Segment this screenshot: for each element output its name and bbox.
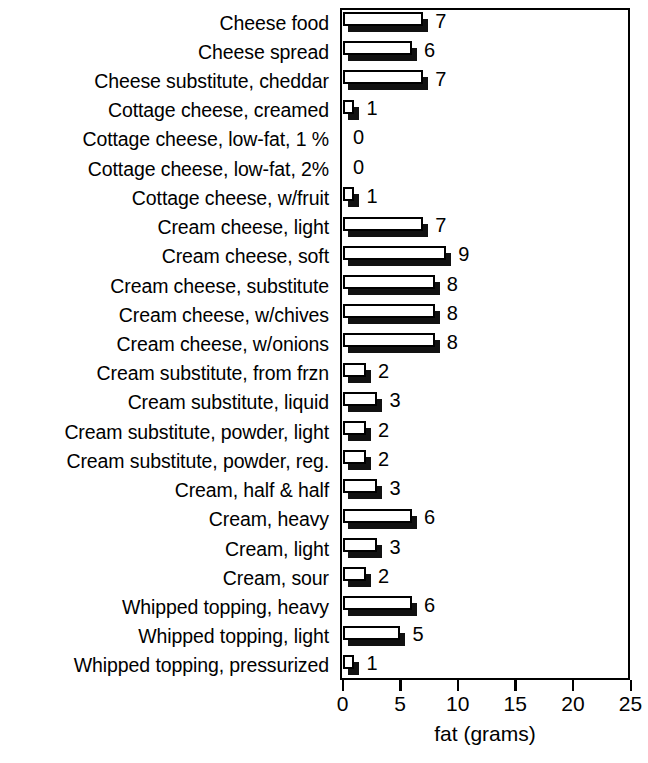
bar bbox=[343, 509, 412, 523]
category-label: Cream, heavy bbox=[0, 509, 335, 529]
bar bbox=[343, 363, 366, 377]
category-label: Cottage cheese, creamed bbox=[0, 100, 335, 120]
category-label: Cream substitute, powder, light bbox=[0, 422, 335, 442]
bar bbox=[343, 392, 377, 406]
category-label: Cream cheese, light bbox=[0, 217, 335, 237]
bar bbox=[343, 655, 354, 669]
bar-row: 3 bbox=[343, 534, 631, 565]
bar bbox=[343, 538, 377, 552]
x-tick-mark bbox=[630, 680, 633, 691]
category-label: Whipped topping, heavy bbox=[0, 597, 335, 617]
bar-value-label: 6 bbox=[424, 507, 435, 528]
bar-row: 2 bbox=[343, 359, 631, 390]
bar-row: 1 bbox=[343, 651, 631, 682]
category-label: Cream, sour bbox=[0, 568, 335, 588]
bar-row: 7 bbox=[343, 213, 631, 244]
category-label: Cheese food bbox=[0, 13, 335, 33]
bar-row: 7 bbox=[343, 8, 631, 39]
bar bbox=[343, 479, 377, 493]
x-tick-label: 15 bbox=[495, 692, 535, 716]
bar bbox=[343, 100, 354, 114]
x-tick-label: 25 bbox=[611, 692, 648, 716]
bar-row: 2 bbox=[343, 417, 631, 448]
category-label: Cream cheese, w/chives bbox=[0, 305, 335, 325]
bar-row: 6 bbox=[343, 505, 631, 536]
category-label: Cream, half & half bbox=[0, 480, 335, 500]
category-label: Cream substitute, powder, reg. bbox=[0, 451, 335, 471]
category-label: Cream substitute, liquid bbox=[0, 392, 335, 412]
bar-value-label: 7 bbox=[435, 215, 446, 236]
bar-row: 5 bbox=[343, 622, 631, 653]
bar bbox=[343, 217, 423, 231]
horizontal-bar-chart: Cheese foodCheese spreadCheese substitut… bbox=[0, 0, 648, 763]
bar-row: 3 bbox=[343, 388, 631, 419]
bar-row: 6 bbox=[343, 592, 631, 623]
x-tick-mark bbox=[572, 680, 575, 691]
bar bbox=[343, 626, 400, 640]
bar-value-label: 2 bbox=[378, 566, 389, 587]
bar-value-label: 8 bbox=[447, 303, 458, 324]
x-axis: fat (grams) 0510152025 bbox=[0, 680, 648, 763]
x-axis-title: fat (grams) bbox=[340, 722, 630, 746]
category-label: Cottage cheese, low-fat, 1 % bbox=[0, 129, 335, 149]
category-label: Cream cheese, substitute bbox=[0, 276, 335, 296]
x-tick-label: 20 bbox=[553, 692, 593, 716]
x-tick-mark bbox=[514, 680, 517, 691]
bar-value-label: 3 bbox=[389, 537, 400, 558]
bar bbox=[343, 246, 446, 260]
bar bbox=[343, 41, 412, 55]
x-tick-label: 10 bbox=[438, 692, 478, 716]
category-label: Cream cheese, soft bbox=[0, 246, 335, 266]
category-label: Cream, light bbox=[0, 539, 335, 559]
bar bbox=[343, 70, 423, 84]
bar-value-label: 1 bbox=[366, 653, 377, 674]
bar-row: 9 bbox=[343, 242, 631, 273]
bar-value-label: 6 bbox=[424, 40, 435, 61]
bar bbox=[343, 187, 354, 201]
bar bbox=[343, 567, 366, 581]
x-tick-mark bbox=[342, 680, 345, 691]
bar bbox=[343, 450, 366, 464]
bar-row: 8 bbox=[343, 271, 631, 302]
bar-row: 0 bbox=[343, 154, 631, 185]
bar-row: 1 bbox=[343, 183, 631, 214]
x-tick-label: 0 bbox=[323, 692, 363, 716]
bar-value-label: 2 bbox=[378, 420, 389, 441]
bar-value-label: 3 bbox=[389, 390, 400, 411]
bar-value-label: 3 bbox=[389, 478, 400, 499]
bar-value-label: 1 bbox=[366, 186, 377, 207]
bar bbox=[343, 275, 435, 289]
x-tick-mark bbox=[399, 680, 402, 691]
bar bbox=[343, 596, 412, 610]
bar bbox=[343, 304, 435, 318]
bar-series: 76710017988823223632651 bbox=[343, 8, 631, 680]
category-label: Whipped topping, pressurized bbox=[0, 655, 335, 675]
category-label: Cheese substitute, cheddar bbox=[0, 71, 335, 91]
bar-row: 7 bbox=[343, 66, 631, 97]
bar-value-label: 8 bbox=[447, 274, 458, 295]
category-label: Cottage cheese, w/fruit bbox=[0, 188, 335, 208]
bar-value-label: 7 bbox=[435, 11, 446, 32]
bar-value-label: 7 bbox=[435, 69, 446, 90]
bar-value-label: 5 bbox=[412, 624, 423, 645]
category-label: Cheese spread bbox=[0, 42, 335, 62]
category-label: Cottage cheese, low-fat, 2% bbox=[0, 159, 335, 179]
bar-row: 6 bbox=[343, 37, 631, 68]
bar-row: 8 bbox=[343, 329, 631, 360]
bar-value-label: 2 bbox=[378, 449, 389, 470]
bar bbox=[343, 421, 366, 435]
bar bbox=[343, 333, 435, 347]
bar bbox=[343, 12, 423, 26]
bar-value-label: 1 bbox=[366, 98, 377, 119]
x-tick-mark bbox=[457, 680, 460, 691]
category-label: Cream substitute, from frzn bbox=[0, 363, 335, 383]
bar-value-label: 0 bbox=[353, 127, 364, 148]
category-label: Cream cheese, w/onions bbox=[0, 334, 335, 354]
bar-value-label: 2 bbox=[378, 361, 389, 382]
bar-value-label: 6 bbox=[424, 595, 435, 616]
bar-value-label: 8 bbox=[447, 332, 458, 353]
bar-value-label: 0 bbox=[353, 157, 364, 178]
bar-row: 8 bbox=[343, 300, 631, 331]
bar-row: 2 bbox=[343, 563, 631, 594]
bar-row: 3 bbox=[343, 475, 631, 506]
